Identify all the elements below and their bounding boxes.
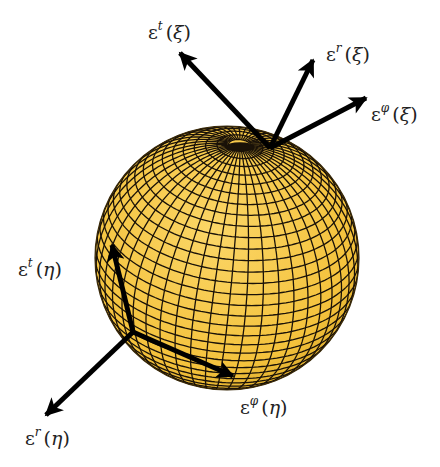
superscript: φ: [250, 394, 258, 408]
argument: (η): [36, 258, 62, 280]
label-er-eta: εr(η): [25, 428, 70, 448]
superscript: r: [35, 425, 41, 439]
argument: (ξ): [392, 103, 417, 125]
sphere-basis-vectors-diagram: [0, 0, 440, 467]
epsilon-symbol: ε: [240, 396, 250, 418]
epsilon-symbol: ε: [18, 258, 28, 280]
argument: (ξ): [345, 43, 370, 65]
label-er-xi: εr(ξ): [326, 44, 370, 64]
superscript: t: [158, 19, 163, 33]
sphere: [95, 126, 359, 390]
argument: (ξ): [166, 21, 191, 43]
label-et-xi: εt(ξ): [148, 22, 191, 42]
superscript: t: [28, 256, 33, 270]
epsilon-symbol: ε: [148, 21, 158, 43]
epsilon-symbol: ε: [326, 43, 336, 65]
superscript: r: [336, 41, 342, 55]
epsilon-symbol: ε: [25, 427, 35, 449]
vector-er-eta-arrow-icon: [46, 332, 133, 415]
epsilon-symbol: ε: [371, 103, 381, 125]
label-ephi-xi: εφ(ξ): [371, 104, 418, 124]
argument: (η): [261, 396, 287, 418]
superscript: φ: [381, 101, 389, 115]
label-ephi-eta: εφ(η): [240, 397, 287, 417]
label-et-eta: εt(η): [18, 259, 62, 279]
argument: (η): [44, 427, 70, 449]
